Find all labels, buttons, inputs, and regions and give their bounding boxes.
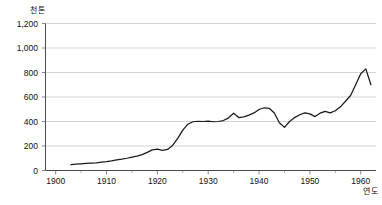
x-tick-label: 1920 [148, 176, 167, 186]
chart-plot-area [0, 0, 382, 205]
y-tick-label: 1,000 [0, 43, 38, 53]
x-tick-label: 1900 [46, 176, 65, 186]
gridlines [46, 24, 377, 147]
x-tick-label: 1950 [300, 176, 319, 186]
x-tick-label: 1930 [199, 176, 218, 186]
x-axis-unit-label: 연도 [363, 185, 378, 196]
x-tick-label: 1940 [250, 176, 269, 186]
y-tick-label: 400 [0, 117, 38, 127]
x-tick-label: 1910 [97, 176, 116, 186]
y-tick-label: 800 [0, 68, 38, 78]
tick-marks [42, 24, 361, 175]
data-series-line [71, 69, 371, 165]
y-tick-label: 600 [0, 92, 38, 102]
y-tick-label: 200 [0, 141, 38, 151]
y-tick-label: 0 [0, 166, 38, 176]
y-tick-label: 1,200 [0, 19, 38, 29]
line-chart: 천톤 02004006008001,0001,200 1900191019201… [0, 0, 382, 205]
